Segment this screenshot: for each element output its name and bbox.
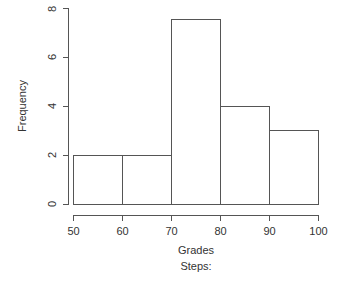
footer-note: Steps: [180,260,211,272]
bar-50-60 [74,156,123,205]
x-tick-label-60: 60 [116,225,128,237]
x-tick-label-70: 70 [165,225,177,237]
y-tick-label-2: 2 [46,152,58,158]
x-tick-label-80: 80 [214,225,226,237]
y-axis-title: Frequency [16,80,28,132]
histogram-plot: 0 2 4 6 8 Frequency 50 60 70 80 90 100 [0,0,345,282]
x-axis-title: Grades [178,244,215,256]
y-tick-label-4: 4 [46,103,58,109]
x-tick-label-50: 50 [67,225,79,237]
y-tick-label-6: 6 [46,54,58,60]
x-tick-label-100: 100 [309,225,327,237]
histogram-figure: 0 2 4 6 8 Frequency 50 60 70 80 90 100 [0,0,345,282]
bar-80-90 [221,107,270,205]
y-tick-label-8: 8 [46,6,58,12]
bar-60-70 [123,156,172,205]
bar-90-100 [270,131,319,205]
bar-70-80 [172,20,221,205]
y-tick-label-0: 0 [46,201,58,207]
x-tick-label-90: 90 [263,225,275,237]
